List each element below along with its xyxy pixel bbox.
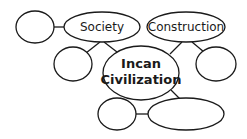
center-label-line2: Civilization: [100, 72, 181, 87]
blank-node-left-mid: [54, 47, 92, 81]
blank-node-bottom-small: [98, 98, 136, 130]
blank-node-right: [196, 47, 236, 81]
edge-society-leftmid: [86, 42, 100, 53]
concept-web-diagram: Society Construction Incan Civilization: [0, 0, 247, 139]
society-label: Society: [80, 20, 124, 34]
edge-construction-center: [170, 42, 182, 54]
edge-construction-right: [192, 42, 204, 52]
construction-label: Construction: [148, 20, 224, 34]
center-label-line1: Incan: [121, 56, 161, 71]
edge-society-center: [104, 42, 117, 52]
blank-node-left: [16, 11, 54, 43]
blank-node-bottom-large: [148, 98, 224, 130]
